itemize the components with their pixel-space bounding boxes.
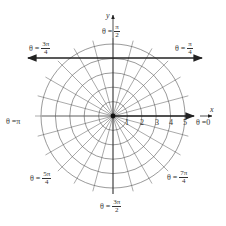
x-axis-label: x: [210, 106, 214, 114]
radius-tick-5: 5: [183, 119, 187, 127]
y-axis-label: y: [106, 12, 110, 20]
pole-point: [111, 114, 116, 119]
radial-line: [113, 96, 188, 116]
radial-line: [113, 41, 133, 116]
angle-label-zero: θ = 0: [196, 119, 210, 127]
radius-tick-1: 1: [125, 119, 129, 127]
angle-label-7pi-over-4: θ = 7π4: [167, 170, 188, 185]
angle-label-pi-over-2: θ = π2: [102, 24, 120, 39]
radial-line: [38, 96, 113, 116]
radial-line: [93, 41, 113, 116]
radius-tick-4: 4: [169, 119, 173, 127]
angle-label-pi: θ = π: [6, 118, 20, 126]
radial-line: [113, 116, 133, 191]
radius-tick-3: 3: [155, 119, 159, 127]
radius-tick-2: 2: [140, 119, 144, 127]
angle-label-3pi-over-2: θ = 3π2: [100, 199, 121, 214]
radial-line: [38, 116, 113, 136]
radial-line: [93, 116, 113, 191]
angle-label-3pi-over-4: θ = 3π4: [29, 41, 50, 56]
angle-label-pi-over-4: θ = π4: [175, 41, 193, 56]
angle-label-5pi-over-4: θ = 5π4: [30, 171, 51, 186]
